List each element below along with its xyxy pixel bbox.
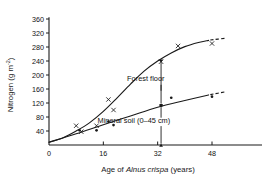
series-1-forest-floor-marker-7 [210,42,214,46]
series-2-mineral-soil-marker-5 [170,96,173,99]
x-tick-label-0: 0 [47,149,51,158]
y-tick-label-200: 200 [32,71,44,80]
x-tick-label-48: 48 [208,149,216,158]
annotation-2-label: Mineral soil (0–45 cm) [98,116,171,125]
chart-canvas: 40801201602002402803203600163248Forest f… [0,0,266,180]
y-tick-label-280: 280 [32,43,44,52]
series-1-forest-floor-dashed-extension [210,38,225,40]
x-axis-title: Age of Alnus crispa (years) [101,165,195,174]
series-1-forest-floor-fit-curve [49,40,209,142]
nitrogen-accumulation-chart: 40801201602002402803203600163248Forest f… [0,0,266,180]
series-2-mineral-soil-marker-0 [78,129,81,132]
y-axis-title: Nitrogen (g m-2) [5,57,15,112]
y-tick-label-360: 360 [32,15,44,24]
x-tick-label-16: 16 [99,149,107,158]
y-tick-label-160: 160 [32,85,44,94]
annotation-1-label: Forest floor [127,74,165,83]
arrow-head [159,60,163,63]
series-2-mineral-soil-marker-6 [211,95,214,98]
x-tick-label-32: 32 [154,149,162,158]
series-1-forest-floor-marker-0 [74,124,78,128]
y-tick-label-320: 320 [32,29,44,38]
y-tick-label-240: 240 [32,57,44,66]
series-2-mineral-soil-dashed-extension [210,92,225,95]
series-2-mineral-soil-marker-1 [95,129,98,132]
y-tick-label-40: 40 [36,127,44,136]
series-1-forest-floor-marker-4 [112,108,116,112]
series-1-forest-floor-marker-6 [176,44,180,48]
y-tick-label-120: 120 [32,99,44,108]
y-tick-label-80: 80 [36,113,44,122]
series-1-forest-floor-marker-3 [107,98,111,102]
